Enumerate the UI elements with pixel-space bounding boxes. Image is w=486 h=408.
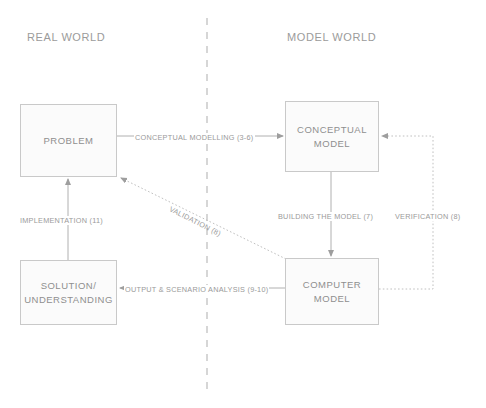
- node-problem[interactable]: PROBLEM: [20, 104, 117, 177]
- node-problem-label: PROBLEM: [44, 134, 94, 148]
- edge-label-conceptual-modelling: CONCEPTUAL MODELLING (3-6): [134, 133, 255, 142]
- edge-label-implementation: IMPLEMENTATION (11): [19, 216, 104, 225]
- zone-title-real-world: REAL WORLD: [27, 31, 105, 43]
- node-conceptual-model[interactable]: CONCEPTUAL MODEL: [285, 101, 379, 172]
- zone-title-model-world: MODEL WORLD: [287, 31, 376, 43]
- edge-label-output-scenario-analysis: OUTPUT & SCENARIO ANALYSIS (9-10): [124, 285, 269, 294]
- node-solution-understanding[interactable]: SOLUTION/ UNDERSTANDING: [20, 260, 117, 325]
- diagram-connectors: [0, 0, 486, 408]
- edge-validation-line: [121, 178, 286, 259]
- node-computer-model-label: COMPUTER MODEL: [303, 278, 361, 306]
- edge-label-verification: VERIFICATION (8): [394, 212, 462, 221]
- edge-label-building-the-model: BUILDING THE MODEL (7): [277, 212, 374, 221]
- node-conceptual-model-label: CONCEPTUAL MODEL: [297, 123, 367, 151]
- node-computer-model[interactable]: COMPUTER MODEL: [285, 258, 379, 325]
- node-solution-understanding-label: SOLUTION/ UNDERSTANDING: [24, 279, 113, 307]
- diagram-canvas: REAL WORLD MODEL WORLD PROBLEM CONCEPTUA…: [0, 0, 486, 408]
